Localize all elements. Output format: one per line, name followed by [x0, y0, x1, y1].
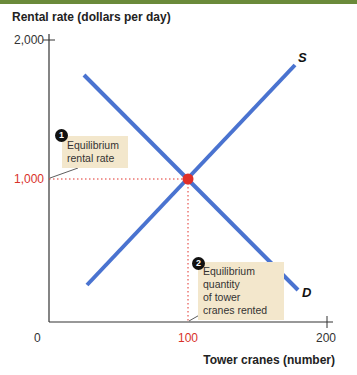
demand-label: D	[302, 285, 311, 300]
annotation-equilibrium-quantity: Equilibrium quantity of tower cranes ren…	[198, 262, 284, 320]
y-tick-2000: 2,000	[14, 33, 44, 47]
supply-label: S	[298, 50, 307, 65]
equilibrium-point	[183, 174, 194, 185]
badge-1: 1	[55, 129, 68, 142]
x-axis-label: Tower cranes (number)	[203, 353, 335, 367]
x-tick-200: 200	[316, 331, 336, 345]
badge-2: 2	[192, 257, 205, 270]
x-tick-100: 100	[178, 331, 198, 345]
x-tick-0: 0	[34, 331, 41, 345]
y-axis-label: Rental rate (dollars per day)	[12, 10, 171, 24]
y-tick-1000: 1,000	[14, 172, 44, 186]
annotation-equilibrium-rate: Equilibrium rental rate	[62, 136, 128, 168]
